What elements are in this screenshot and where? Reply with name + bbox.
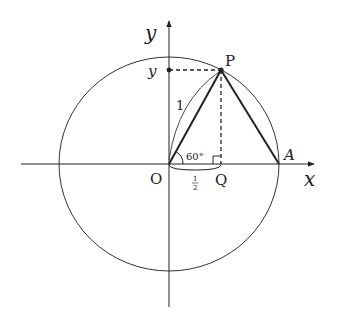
unit-circle-diagram: y x P y O Q A 1 60° 1 2 [0,0,338,325]
right-angle-marker [213,156,221,164]
label-radius: 1 [176,98,184,113]
y-axis-label: y [144,21,157,45]
label-q: Q [215,171,227,189]
fraction-numerator: 1 [193,175,197,183]
label-angle: 60° [186,151,204,162]
angle-arc [176,152,183,164]
label-origin: O [150,170,162,188]
label-p: P [225,52,235,70]
x-axis-label: x [304,167,315,191]
point-y-marker [167,68,172,73]
label-a: A [282,146,295,164]
point-p [218,67,223,72]
base-brace [169,165,221,170]
segment-op [169,70,221,164]
segment-pa [221,70,279,164]
label-y-marker: y [147,62,157,80]
fraction-denominator: 2 [193,184,197,192]
